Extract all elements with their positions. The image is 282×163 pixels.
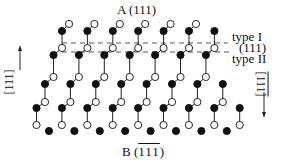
open-atom-icon	[67, 98, 74, 105]
open-atom-icon	[185, 121, 192, 128]
open-atom-icon	[211, 121, 218, 128]
up-arrow-icon	[18, 45, 22, 51]
filled-atom-icon	[75, 51, 82, 58]
right-axis-label: [111]	[255, 71, 267, 96]
filled-atom-icon	[84, 27, 91, 34]
open-atom-icon	[236, 121, 243, 128]
down-arrow-icon	[262, 112, 266, 118]
open-atom-icon	[202, 73, 209, 80]
filled-atom-icon	[41, 80, 48, 87]
filled-atom-icon	[45, 127, 52, 134]
filled-atom-icon	[109, 27, 116, 34]
filled-atom-icon	[223, 127, 230, 134]
open-atom-icon	[152, 73, 159, 80]
filled-atom-icon	[143, 80, 150, 87]
top-face-label: A (111)	[117, 3, 156, 16]
filled-atom-icon	[185, 27, 192, 34]
filled-atom-icon	[92, 80, 99, 87]
type-ii-label: type II	[232, 52, 266, 65]
open-atom-icon	[116, 20, 123, 27]
open-atom-icon	[58, 44, 65, 51]
filled-atom-icon	[202, 51, 209, 58]
filled-atom-icon	[194, 80, 201, 87]
filled-atom-icon	[96, 127, 103, 134]
open-atom-icon	[168, 98, 175, 105]
filled-atom-icon	[147, 127, 154, 134]
top-face-suffix: )	[152, 2, 156, 17]
open-atom-icon	[91, 20, 98, 27]
filled-atom-icon	[185, 104, 192, 111]
diagram-root: A (111) type I (111) type II B (111) [11…	[0, 0, 282, 163]
open-atom-icon	[219, 98, 226, 105]
filled-atom-icon	[135, 27, 142, 34]
filled-atom-icon	[236, 104, 243, 111]
open-atom-icon	[118, 98, 125, 105]
open-atom-icon	[177, 73, 184, 80]
open-atom-icon	[160, 44, 167, 51]
open-atom-icon	[109, 44, 116, 51]
open-atom-icon	[84, 121, 91, 128]
filled-atom-icon	[67, 80, 74, 87]
filled-atom-icon	[50, 51, 57, 58]
open-atom-icon	[135, 121, 142, 128]
filled-atom-icon	[58, 104, 65, 111]
open-atom-icon	[135, 44, 142, 51]
filled-atom-icon	[109, 104, 116, 111]
bottom-face-prefix: B (	[122, 144, 138, 159]
top-face-prefix: A (	[117, 2, 133, 17]
open-atom-icon	[92, 98, 99, 105]
open-atom-icon	[33, 121, 40, 128]
filled-atom-icon	[168, 80, 175, 87]
open-atom-icon	[101, 73, 108, 80]
bottom-face-label: B (111)	[122, 145, 164, 158]
filled-atom-icon	[160, 104, 167, 111]
filled-atom-icon	[198, 127, 205, 134]
open-atom-icon	[142, 20, 149, 27]
open-atom-icon	[192, 20, 199, 27]
open-atom-icon	[143, 98, 150, 105]
filled-atom-icon	[84, 104, 91, 111]
filled-atom-icon	[33, 104, 40, 111]
filled-atom-icon	[135, 104, 142, 111]
filled-atom-icon	[58, 27, 65, 34]
filled-atom-icon	[101, 51, 108, 58]
open-atom-icon	[167, 20, 174, 27]
zincblende-lattice-diagram	[0, 0, 282, 163]
open-atom-icon	[194, 98, 201, 105]
bottom-face-index: 111	[138, 144, 160, 159]
open-atom-icon	[109, 121, 116, 128]
left-axis-label: [111]	[3, 69, 15, 94]
open-atom-icon	[126, 73, 133, 80]
filled-atom-icon	[118, 80, 125, 87]
open-atom-icon	[65, 20, 72, 27]
filled-atom-icon	[126, 51, 133, 58]
open-atom-icon	[185, 44, 192, 51]
filled-atom-icon	[160, 27, 167, 34]
open-atom-icon	[160, 121, 167, 128]
open-atom-icon	[50, 73, 57, 80]
open-atom-icon	[211, 44, 218, 51]
open-atom-icon	[41, 98, 48, 105]
filled-atom-icon	[211, 104, 218, 111]
filled-atom-icon	[71, 127, 78, 134]
filled-atom-icon	[152, 51, 159, 58]
filled-atom-icon	[219, 80, 226, 87]
filled-atom-icon	[177, 51, 184, 58]
open-atom-icon	[58, 121, 65, 128]
open-atom-icon	[84, 44, 91, 51]
filled-atom-icon	[122, 127, 129, 134]
open-atom-icon	[75, 73, 82, 80]
bottom-face-suffix: )	[160, 144, 164, 159]
filled-atom-icon	[211, 27, 218, 34]
top-face-index: 111	[133, 2, 152, 17]
filled-atom-icon	[172, 127, 179, 134]
